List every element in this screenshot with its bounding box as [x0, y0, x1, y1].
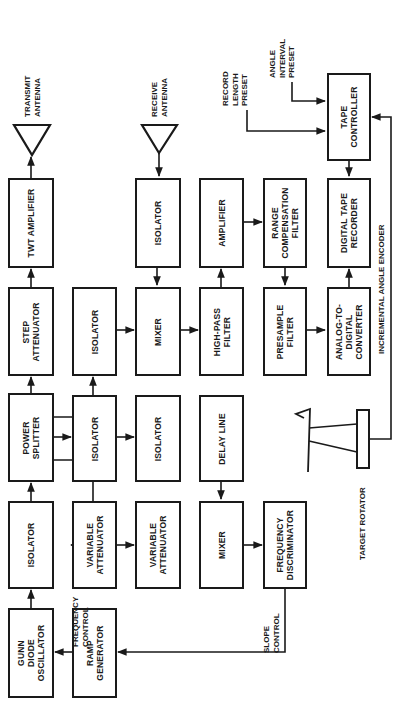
block-label: PRESAMPLE FILTER: [275, 304, 295, 359]
angle-interval-preset-label: ANGLE INTERVAL PRESET: [268, 39, 297, 78]
isolator-upper-block: ISOLATOR: [72, 287, 117, 376]
step-attenuator-block: STEP ATTENUATOR: [8, 287, 54, 376]
tape-controller-block: TAPE CONTROLLER: [327, 73, 371, 161]
frequency-control-label: FREQUENCY CONTROL: [71, 597, 90, 647]
block-label: ISOLATOR: [26, 523, 36, 568]
block-label: ISOLATOR: [90, 309, 100, 354]
isolator-middle-alt-block: ISOLATOR: [135, 395, 181, 482]
block-label: HIGH-PASS FILTER: [212, 307, 232, 355]
receive-antenna-label: RECEIVE ANTENNA: [150, 78, 169, 117]
slope-control-label: SLOPE CONTROL: [262, 613, 281, 653]
frequency-discriminator-block: FREQUENCY DISCRIMINATOR: [263, 501, 307, 589]
variable-attenuator-alt-block: VARIABLE ATTENUATOR: [135, 501, 181, 589]
block-label: TWT AMPLIFIER: [26, 189, 36, 258]
isolator-tx-block: ISOLATOR: [8, 501, 54, 589]
isolator-middle-block: ISOLATOR: [72, 395, 117, 482]
range-compensation-filter-block: RANGE COMPENSATION FILTER: [263, 178, 307, 268]
block-label: ANALOG-TO- DIGITAL CONVERTER: [334, 303, 364, 359]
digital-tape-recorder-block: DIGITAL TAPE RECORDER: [327, 178, 371, 268]
block-label: DELAY LINE: [217, 413, 227, 465]
block-label: ISOLATOR: [90, 416, 100, 461]
block-label: MIXER: [217, 531, 227, 559]
block-label: TAPE CONTROLLER: [339, 86, 359, 147]
power-splitter-block: POWER SPLITTER: [8, 393, 54, 482]
mixer-rx-block: MIXER: [135, 287, 181, 376]
target-rotator-label: TARGET ROTATOR: [358, 487, 368, 560]
block-label: FREQUENCY DISCRIMINATOR: [275, 510, 295, 580]
block-label: VARIABLE ATTENUATOR: [148, 515, 168, 574]
block-label: GUNN DIODE OSCILLATOR: [16, 625, 46, 681]
record-length-preset-label: RECORD LENGTH PRESET: [221, 71, 250, 106]
delay-line-block: DELAY LINE: [199, 395, 244, 482]
block-label: VARIABLE ATTENUATOR: [85, 515, 105, 574]
high-pass-filter-block: HIGH-PASS FILTER: [199, 287, 244, 376]
block-label: DIGITAL TAPE RECORDER: [339, 193, 359, 253]
amplifier-block: AMPLIFIER: [199, 178, 244, 268]
block-label: POWER SPLITTER: [21, 416, 41, 459]
block-label: MIXER: [153, 318, 163, 346]
block-label: RANGE COMPENSATION FILTER: [270, 187, 300, 258]
block-label: AMPLIFIER: [217, 199, 227, 247]
block-label: STEP ATTENUATOR: [21, 302, 41, 361]
adc-block: ANALOG-TO- DIGITAL CONVERTER: [327, 287, 371, 376]
block-diagram: TWT AMPLIFIER STEP ATTENUATOR POWER SPLI…: [0, 0, 417, 710]
block-label: ISOLATOR: [153, 201, 163, 246]
transmit-antenna-label: TRANSMIT ANTENNA: [23, 76, 42, 117]
isolator-rx-block: ISOLATOR: [135, 178, 181, 268]
variable-attenuator-block: VARIABLE ATTENUATOR: [72, 501, 117, 589]
gunn-diode-oscillator-block: GUNN DIODE OSCILLATOR: [8, 608, 54, 698]
twt-amplifier-block: TWT AMPLIFIER: [8, 178, 54, 268]
block-label: ISOLATOR: [153, 416, 163, 461]
mixer-ref-block: MIXER: [199, 501, 244, 589]
incremental-angle-encoder-label: INCREMENTAL ANGLE ENCODER: [377, 224, 387, 354]
presample-filter-block: PRESAMPLE FILTER: [263, 287, 307, 376]
